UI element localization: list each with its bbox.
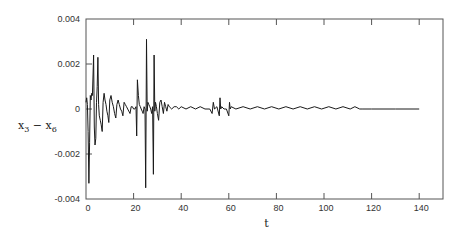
x-tick-label: 20: [131, 203, 141, 213]
x-tick-label: 60: [226, 203, 236, 213]
y-tick-label: 0.004: [57, 14, 80, 24]
line-chart: 0.0040.0020-0.002-0.004 0204060801001201…: [0, 0, 459, 237]
x-axis-label: t: [264, 217, 269, 230]
x-tick-label: 120: [366, 203, 381, 213]
y-tick-label: -0.004: [54, 194, 80, 204]
y-tick-label: 0: [75, 104, 80, 114]
x-axis-tick-labels: 020406080100120140: [85, 203, 428, 213]
y-axis-tick-labels: 0.0040.0020-0.002-0.004: [54, 14, 80, 204]
x-tick-label: 100: [318, 203, 333, 213]
y-tick-label: 0.002: [57, 59, 80, 69]
x-tick-label: 80: [273, 203, 283, 213]
x-tick-label: 40: [178, 203, 188, 213]
x-tick-label: 0: [85, 203, 90, 213]
x-tick-label: 140: [414, 203, 429, 213]
y-axis-label: x3 − x6: [18, 119, 57, 134]
y-tick-label: -0.002: [54, 149, 80, 159]
series-line-x3-minus-x6: [86, 39, 419, 188]
